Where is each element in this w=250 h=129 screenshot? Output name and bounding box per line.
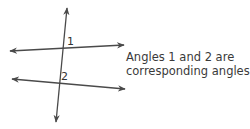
lower-line — [12, 79, 125, 89]
caption-line-1: Angles 1 and 2 are — [126, 51, 250, 65]
transversal-line — [56, 8, 67, 122]
caption-line-2: corresponding angles. — [126, 65, 250, 79]
caption: Angles 1 and 2 are corresponding angles. — [126, 51, 250, 78]
angle-2-label: 2 — [61, 71, 68, 82]
angle-1-label: 1 — [67, 36, 74, 47]
